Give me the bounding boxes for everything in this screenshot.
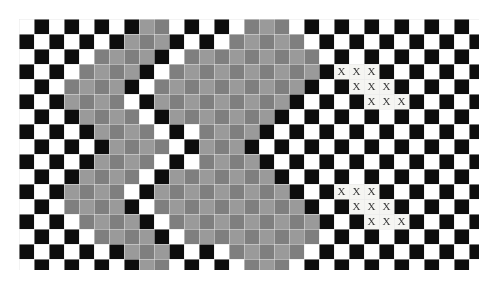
- checkerboard-canvas: [19, 19, 479, 270]
- figure-root: XXXXXXXXXXXXXXXXXX: [0, 0, 497, 287]
